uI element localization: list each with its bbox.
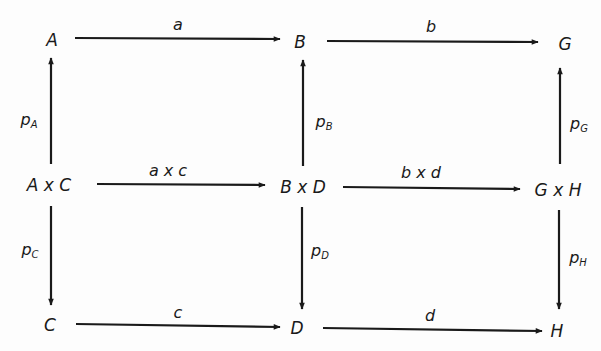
label-a: a: [173, 15, 183, 34]
arrow-axc: [97, 184, 265, 185]
label-pB: pB: [315, 112, 332, 132]
arrow-c: [76, 324, 280, 327]
arrow-bxd: [343, 187, 520, 189]
arrow-b: [327, 41, 538, 42]
node-A: A: [46, 30, 58, 50]
label-pC: pC: [21, 240, 38, 260]
node-B: B: [294, 32, 306, 52]
node-C: C: [44, 315, 56, 335]
label-pA: pA: [21, 110, 38, 130]
label-axc: a x c: [149, 161, 187, 180]
node-BxD: B x D: [280, 177, 326, 197]
label-b: b: [426, 17, 436, 36]
commutative-diagram: A B G A x C B x D G x H C D H a b a x c …: [0, 0, 601, 351]
node-D: D: [290, 318, 303, 338]
node-GxH: G x H: [535, 180, 582, 200]
node-AxC: A x C: [27, 175, 71, 195]
arrows-layer: [0, 0, 601, 351]
label-pG: pG: [570, 114, 588, 134]
node-H: H: [551, 321, 564, 341]
arrow-d: [323, 328, 542, 331]
label-c: c: [174, 303, 183, 322]
arrow-a: [75, 38, 280, 39]
label-pH: pH: [569, 248, 587, 268]
label-bxd: b x d: [401, 163, 441, 182]
label-d: d: [425, 306, 435, 325]
node-G: G: [558, 34, 571, 54]
label-pD: pD: [311, 241, 329, 261]
